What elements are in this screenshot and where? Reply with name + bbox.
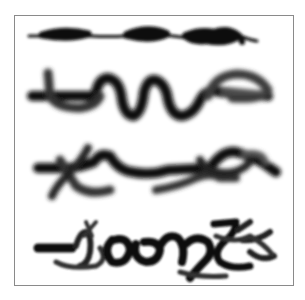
stroke-row-1 [29, 30, 257, 42]
stroke-row-4 [38, 222, 274, 278]
stroke-row-2 [32, 73, 268, 116]
stroke-row-3 [38, 148, 276, 196]
brush-strokes-canvas [0, 0, 305, 300]
